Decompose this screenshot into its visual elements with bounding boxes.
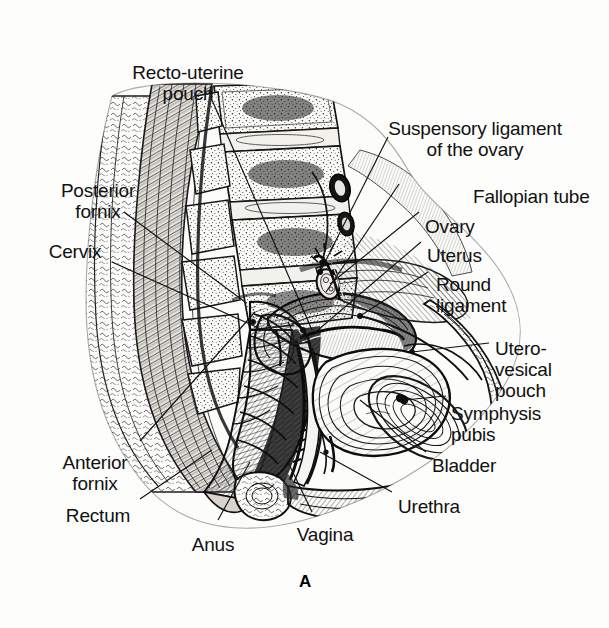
label-symphysis-pubis-line-1: pubis xyxy=(451,424,541,445)
label-cervix-line-0: Cervix xyxy=(0,241,225,262)
label-ovary-line-0: Ovary xyxy=(425,216,475,237)
label-suspensory-ligament-of-the-ovary-line-1: of the ovary xyxy=(325,139,609,160)
label-urethra: Urethra xyxy=(398,496,460,517)
label-uterus: Uterus xyxy=(427,245,482,266)
anatomical-figure: Recto-uterinepouchPosteriorfornixCervixA… xyxy=(0,0,609,628)
label-suspensory-ligament-of-the-ovary: Suspensory ligamentof the ovary xyxy=(325,118,609,160)
label-round-ligament-line-1: ligament xyxy=(436,295,506,316)
label-bladder-line-0: Bladder xyxy=(432,455,496,476)
label-anterior-fornix: Anteriorfornix xyxy=(0,452,245,494)
label-recto-uterine-pouch: Recto-uterinepouch xyxy=(38,62,338,104)
label-rectum-line-0: Rectum xyxy=(0,505,248,526)
label-anterior-fornix-line-1: fornix xyxy=(0,473,245,494)
label-round-ligament-line-0: Round xyxy=(436,274,506,295)
label-recto-uterine-pouch-line-1: pouch xyxy=(38,83,338,104)
label-utero-vesical-pouch-line-2: pouch xyxy=(495,380,552,401)
label-posterior-fornix-line-0: Posterior xyxy=(0,180,248,201)
label-posterior-fornix-line-1: fornix xyxy=(0,201,248,222)
label-vagina: Vagina xyxy=(175,524,475,545)
label-posterior-fornix: Posteriorfornix xyxy=(0,180,248,222)
label-fallopian-tube-line-0: Fallopian tube xyxy=(473,186,590,207)
label-ovary: Ovary xyxy=(425,216,475,237)
label-urethra-line-0: Urethra xyxy=(398,496,460,517)
label-bladder: Bladder xyxy=(432,455,496,476)
label-anterior-fornix-line-0: Anterior xyxy=(0,452,245,473)
label-cervix: Cervix xyxy=(0,241,225,262)
label-utero-vesical-pouch-line-1: vesical xyxy=(495,359,552,380)
label-symphysis-pubis: Symphysispubis xyxy=(451,403,541,445)
label-utero-vesical-pouch-line-0: Utero- xyxy=(495,338,552,359)
label-uterus-line-0: Uterus xyxy=(427,245,482,266)
label-rectum: Rectum xyxy=(0,505,248,526)
label-vagina-line-0: Vagina xyxy=(175,524,475,545)
label-recto-uterine-pouch-line-0: Recto-uterine xyxy=(38,62,338,83)
label-round-ligament: Roundligament xyxy=(436,274,506,316)
label-fallopian-tube: Fallopian tube xyxy=(473,186,590,207)
panel-letter: A xyxy=(299,572,311,592)
label-suspensory-ligament-of-the-ovary-line-0: Suspensory ligament xyxy=(325,118,609,139)
label-symphysis-pubis-line-0: Symphysis xyxy=(451,403,541,424)
label-utero-vesical-pouch: Utero-vesicalpouch xyxy=(495,338,552,401)
